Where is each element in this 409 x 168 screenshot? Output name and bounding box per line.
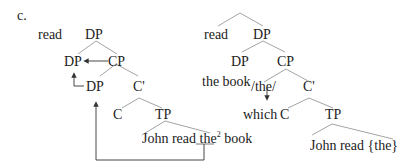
right-cbar: C' <box>303 80 315 94</box>
left-sentence: John read the2 book <box>142 131 252 146</box>
right-c: C <box>280 108 289 122</box>
sentence-post: book <box>221 131 253 146</box>
example-label: c. <box>17 9 27 23</box>
left-c: C <box>113 108 122 122</box>
left-dp-head: DP <box>64 55 82 69</box>
left-read: read <box>38 28 62 42</box>
left-dp-spec: DP <box>86 80 104 94</box>
right-dp-head: DP <box>231 55 249 69</box>
right-the-slash: /the/ <box>251 80 276 94</box>
right-root-dp: DP <box>253 28 271 42</box>
left-cbar: C' <box>133 80 145 94</box>
right-which: which <box>243 108 277 122</box>
right-tp: TP <box>325 108 341 122</box>
left-tp: TP <box>155 108 171 122</box>
syntax-diagram: c. read DP DP CP DP C' C TP John read th… <box>0 0 409 168</box>
right-read: read <box>204 28 228 42</box>
sentence-pre: John read <box>142 131 200 146</box>
right-the-book: the book <box>202 75 251 89</box>
sentence-the: the <box>200 131 217 146</box>
right-cp: CP <box>277 55 294 69</box>
left-root-dp: DP <box>85 28 103 42</box>
left-cp: CP <box>108 55 125 69</box>
right-sentence: John read {the} <box>310 139 398 153</box>
